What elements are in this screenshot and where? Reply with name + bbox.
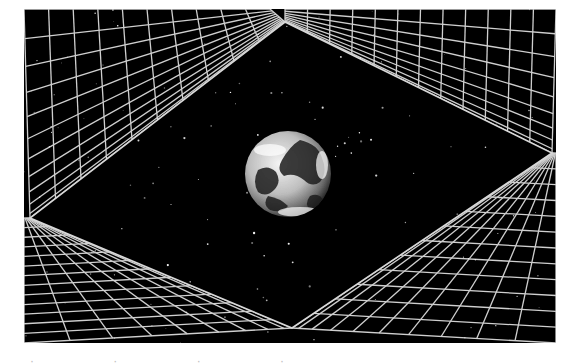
space-grid-photo	[0, 0, 574, 363]
cut-off-caption: · · · ·	[30, 354, 550, 363]
earth	[245, 131, 331, 217]
